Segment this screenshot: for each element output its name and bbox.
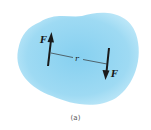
force-label-bottom: F — [110, 69, 118, 79]
couple-diagram: F F r (a) — [0, 0, 151, 130]
figure-caption: (a) — [71, 114, 81, 122]
force-label-top: F — [39, 35, 47, 45]
